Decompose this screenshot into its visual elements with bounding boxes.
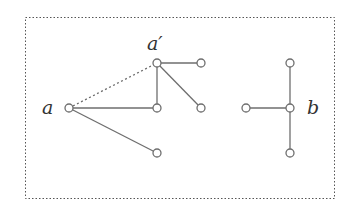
node-a (65, 104, 73, 112)
node-b (286, 104, 294, 112)
node-n2 (153, 104, 161, 112)
edges-group (69, 63, 290, 153)
edge-a-prime-n3 (157, 63, 201, 108)
node-n3 (197, 104, 205, 112)
label-a: a (42, 96, 53, 118)
node-b-left (242, 104, 250, 112)
node-n4 (153, 149, 161, 157)
label-a-prime: a′ (147, 32, 163, 54)
node-n1 (197, 59, 205, 67)
node-a-prime (153, 59, 161, 67)
label-b: b (307, 96, 319, 118)
node-b-top (286, 59, 294, 67)
edge-a-a-prime (69, 63, 157, 108)
labels-group: aa′b (42, 32, 319, 118)
node-b-bottom (286, 149, 294, 157)
graph-diagram: aa′b (0, 0, 356, 213)
edge-a-n4 (69, 108, 157, 153)
